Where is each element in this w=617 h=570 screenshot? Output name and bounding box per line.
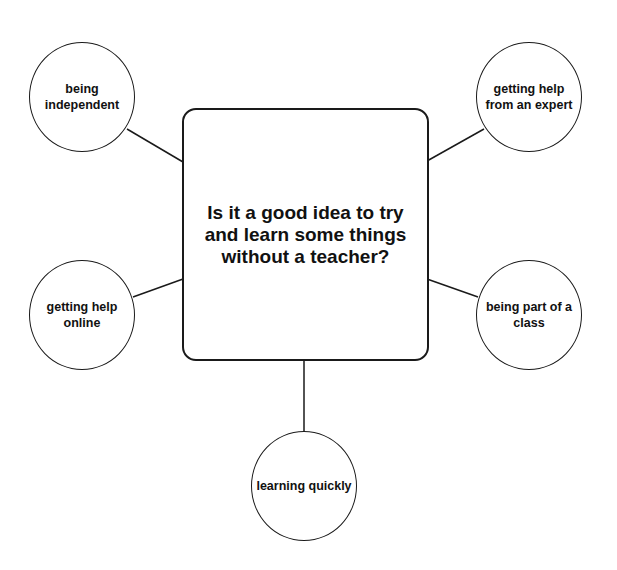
node-getting-help-online: getting help online	[29, 260, 135, 370]
central-question-text: Is it a good idea to try and learn some …	[188, 202, 423, 268]
node-getting-help-from-an-expert: getting help from an expert	[476, 42, 582, 152]
central-question-box: Is it a good idea to try and learn some …	[182, 108, 429, 361]
connector-middle-left	[133, 279, 183, 297]
connector-top-left	[127, 129, 183, 162]
node-label: getting help from an expert	[481, 81, 577, 113]
connector-middle-right	[427, 279, 478, 297]
node-being-independent: being independent	[29, 42, 135, 152]
node-label: being part of a class	[481, 299, 577, 331]
node-label: getting help online	[34, 299, 130, 331]
node-label: being independent	[34, 81, 130, 113]
node-label: learning quickly	[256, 478, 352, 494]
node-learning-quickly: learning quickly	[251, 431, 357, 541]
connector-top-right	[427, 129, 484, 161]
node-being-part-of-a-class: being part of a class	[476, 260, 582, 370]
